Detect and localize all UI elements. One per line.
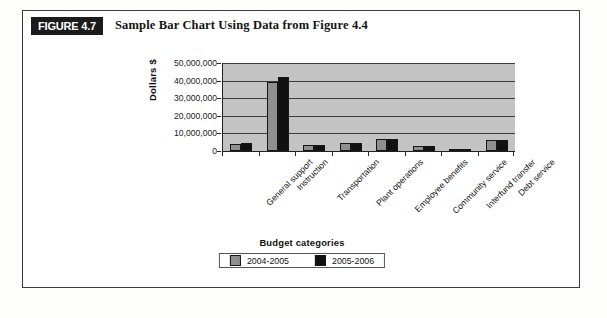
bar-group xyxy=(369,63,406,151)
bar-0 xyxy=(230,144,241,151)
x-tick-mark xyxy=(368,151,369,156)
chart-legend: 2004-2005 2005-2006 xyxy=(219,253,385,268)
bar-1 xyxy=(278,77,289,151)
legend-swatch-icon xyxy=(230,255,241,266)
x-tick-mark xyxy=(222,151,223,156)
y-tick-mark xyxy=(217,151,221,152)
x-tick-mark xyxy=(441,151,442,156)
bar-1 xyxy=(351,143,362,151)
bar-1 xyxy=(497,140,508,151)
x-axis-category-labels: General supportInstructionTransportation… xyxy=(222,157,514,217)
x-tick-mark xyxy=(405,151,406,156)
bar-0 xyxy=(340,143,351,151)
x-axis-title: Budget categories xyxy=(23,237,581,248)
x-tick-mark xyxy=(478,151,479,156)
figure-title: Sample Bar Chart Using Data from Figure … xyxy=(115,18,368,33)
bar-chart: Dollars $ 50,000,000 40,000,000 30,000,0… xyxy=(23,41,581,288)
x-tick-mark xyxy=(332,151,333,156)
bar-group xyxy=(479,63,516,151)
figure-header: FIGURE 4.7 Sample Bar Chart Using Data f… xyxy=(23,11,581,41)
y-tick-mark xyxy=(217,116,221,117)
bar-group xyxy=(223,63,260,151)
y-tick-label: 30,000,000 xyxy=(174,93,217,103)
bar-0 xyxy=(376,139,387,151)
figure-number-badge: FIGURE 4.7 xyxy=(31,17,103,35)
figure-container: FIGURE 4.7 Sample Bar Chart Using Data f… xyxy=(22,10,580,288)
legend-item-2005-2006: 2005-2006 xyxy=(315,255,374,266)
bar-group xyxy=(406,63,443,151)
y-tick-mark xyxy=(217,63,221,64)
x-category-label: Plant operations xyxy=(374,157,425,208)
y-tick-label: 20,000,000 xyxy=(174,111,217,121)
x-tick-mark xyxy=(513,151,514,156)
legend-swatch-icon xyxy=(315,255,326,266)
y-tick-mark xyxy=(217,98,221,99)
bar-1 xyxy=(387,139,398,151)
legend-label: 2005-2006 xyxy=(332,256,374,266)
y-tick-mark xyxy=(217,81,221,82)
y-axis-tick-labels: 50,000,000 40,000,000 30,000,000 20,000,… xyxy=(151,63,217,151)
bar-1 xyxy=(241,143,252,151)
bar-group xyxy=(333,63,370,151)
legend-item-2004-2005: 2004-2005 xyxy=(230,255,289,266)
y-tick-label: 40,000,000 xyxy=(174,76,217,86)
legend-label: 2004-2005 xyxy=(247,256,289,266)
y-tick-mark xyxy=(217,133,221,134)
bar-group xyxy=(442,63,479,151)
x-tick-mark xyxy=(259,151,260,156)
bar-0 xyxy=(267,82,278,151)
x-axis-tick-marks xyxy=(222,151,514,156)
y-tick-label: 10,000,000 xyxy=(174,128,217,138)
bar-0 xyxy=(486,140,497,151)
x-category-label: Transportation xyxy=(335,157,381,203)
y-tick-label: 50,000,000 xyxy=(174,58,217,68)
x-tick-mark xyxy=(295,151,296,156)
plot-area xyxy=(222,63,515,152)
figure-page: FIGURE 4.7 Sample Bar Chart Using Data f… xyxy=(0,0,607,318)
bar-group xyxy=(296,63,333,151)
bar-groups xyxy=(223,63,515,151)
bar-group xyxy=(260,63,297,151)
